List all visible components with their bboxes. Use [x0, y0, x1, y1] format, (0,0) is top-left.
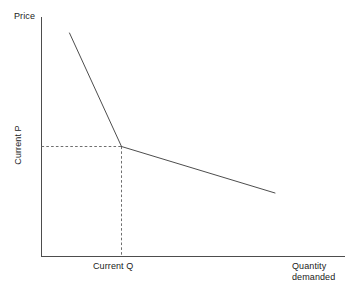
y-axis-tick-label-current-p: Current P — [12, 112, 24, 178]
y-axis-title: Price — [14, 11, 35, 22]
kinked-demand-curve-figure: Price Current P Current Q Quantity deman… — [0, 0, 352, 297]
x-axis-tick-label-current-q: Current Q — [93, 261, 133, 272]
upper-steep-demand-segment — [70, 33, 122, 147]
x-axis-title-line1: Quantity — [292, 261, 326, 271]
plot-area — [0, 0, 352, 297]
current-p-text: Current P — [13, 125, 24, 164]
x-axis-title-line2: demanded — [292, 272, 335, 282]
x-axis-title: Quantity demanded — [292, 261, 348, 283]
lower-flat-demand-segment — [122, 147, 276, 194]
